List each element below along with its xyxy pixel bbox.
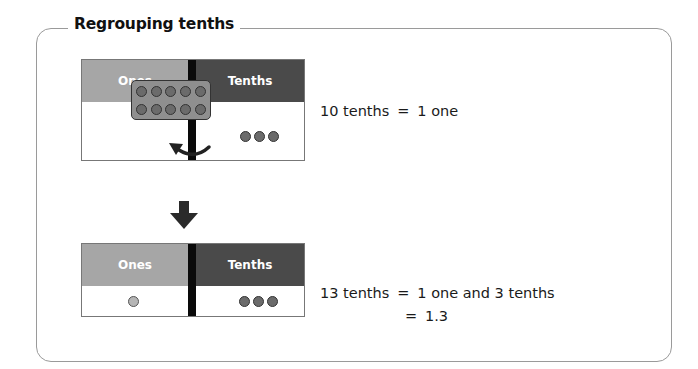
loose-tenths (240, 131, 279, 142)
tenths-header: Tenths (196, 60, 304, 102)
tenth-counter (180, 104, 191, 115)
tenth-counter (151, 86, 162, 97)
tenth-counter (254, 131, 265, 142)
section-title: Regrouping tenths (68, 15, 240, 33)
tenth-counter (151, 104, 162, 115)
eq-left: 10 tenths (320, 103, 389, 119)
eq-left: 13 tenths (320, 285, 389, 301)
grouped-ten-tenths (131, 80, 211, 120)
curved-arrow-left-icon (165, 140, 213, 164)
arrow-down-icon (169, 201, 199, 229)
equation-decimal: =1.3 (397, 308, 448, 324)
eq-right: 1.3 (425, 308, 448, 324)
equals-sign: = (397, 308, 425, 324)
ones-header: Ones (82, 244, 188, 286)
tenth-counter (195, 104, 206, 115)
tenth-counter (268, 131, 279, 142)
tenth-counter (239, 296, 250, 307)
tenth-counter (136, 86, 147, 97)
ones-counters (128, 296, 139, 307)
tenth-counter (136, 104, 147, 115)
tenths-counters (239, 296, 278, 307)
eq-right: 1 one and 3 tenths (417, 285, 554, 301)
tenths-header: Tenths (196, 244, 304, 286)
tenth-counter (195, 86, 206, 97)
tenth-counter (165, 104, 176, 115)
decimal-divider (188, 244, 196, 316)
tenth-counter (240, 131, 251, 142)
eq-right: 1 one (417, 103, 458, 119)
equals-sign: = (389, 103, 417, 119)
tenth-counter (253, 296, 264, 307)
equals-sign: = (389, 285, 417, 301)
tenth-counter (267, 296, 278, 307)
one-counter (128, 296, 139, 307)
tenth-counter (180, 86, 191, 97)
equation-thirteen-tenths: 13 tenths=1 one and 3 tenths (320, 285, 555, 301)
equation-ten-tenths: 10 tenths=1 one (320, 103, 458, 119)
tenth-counter (165, 86, 176, 97)
